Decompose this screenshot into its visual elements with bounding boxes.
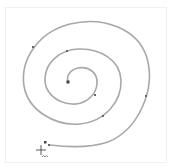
path-node[interactable] [145,95,147,97]
spiral-path-drawing[interactable] [0,0,175,168]
path-node[interactable] [66,50,68,52]
path-node[interactable] [32,46,34,48]
start-anchor-node[interactable] [67,81,70,84]
spiral-path[interactable] [23,22,149,147]
end-anchor-node[interactable] [44,141,47,144]
path-node[interactable] [94,94,96,96]
path-node[interactable] [48,144,50,146]
path-node[interactable] [102,115,104,117]
pen-cursor-icon [36,145,48,157]
